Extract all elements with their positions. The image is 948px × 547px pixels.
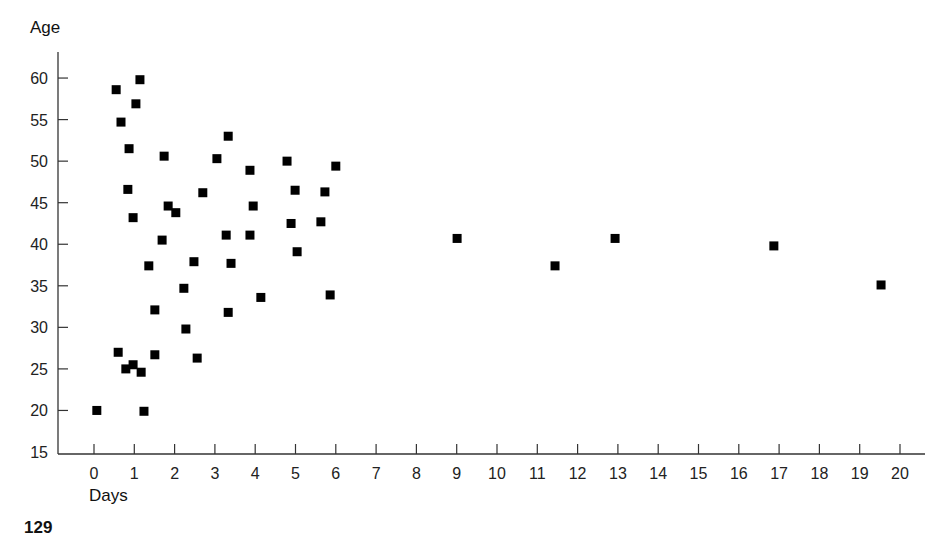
data-point bbox=[139, 407, 148, 416]
x-tick-label: 1 bbox=[130, 465, 139, 482]
data-point bbox=[164, 202, 173, 211]
x-tick-label: 7 bbox=[372, 465, 381, 482]
data-point bbox=[331, 162, 340, 171]
data-point bbox=[453, 234, 462, 243]
y-tick-label: 60 bbox=[30, 70, 48, 87]
data-point bbox=[171, 208, 180, 217]
data-point bbox=[135, 75, 144, 84]
data-points bbox=[92, 75, 885, 416]
data-point bbox=[287, 219, 296, 228]
data-point bbox=[144, 261, 153, 270]
data-point bbox=[316, 217, 325, 226]
data-point bbox=[320, 187, 329, 196]
data-point bbox=[227, 259, 236, 268]
x-tick-label: 10 bbox=[488, 465, 506, 482]
data-point bbox=[123, 185, 132, 194]
data-point bbox=[769, 241, 778, 250]
data-point bbox=[256, 293, 265, 302]
data-point bbox=[245, 231, 254, 240]
x-tick-label: 14 bbox=[649, 465, 667, 482]
data-point bbox=[117, 118, 126, 127]
x-tick-label: 20 bbox=[891, 465, 909, 482]
axes: 1520253035404550556001234567891011121314… bbox=[30, 52, 925, 482]
data-point bbox=[179, 284, 188, 293]
scatter-plot: 1520253035404550556001234567891011121314… bbox=[0, 0, 948, 547]
x-tick-label: 11 bbox=[529, 465, 546, 482]
data-point bbox=[189, 257, 198, 266]
x-tick-label: 0 bbox=[90, 465, 99, 482]
data-point bbox=[293, 247, 302, 256]
data-point bbox=[611, 234, 620, 243]
data-point bbox=[249, 202, 258, 211]
data-point bbox=[160, 152, 169, 161]
x-tick-label: 9 bbox=[452, 465, 461, 482]
y-tick-label: 40 bbox=[30, 236, 48, 253]
data-point bbox=[551, 261, 560, 270]
data-point bbox=[222, 231, 231, 240]
y-tick-label: 20 bbox=[30, 402, 48, 419]
x-tick-label: 3 bbox=[210, 465, 219, 482]
data-point bbox=[92, 406, 101, 415]
data-point bbox=[326, 290, 335, 299]
y-tick-label: 15 bbox=[30, 444, 48, 461]
y-tick-label: 55 bbox=[30, 112, 48, 129]
x-tick-label: 5 bbox=[291, 465, 300, 482]
data-point bbox=[877, 280, 886, 289]
y-tick-label: 30 bbox=[30, 319, 48, 336]
data-point bbox=[129, 360, 138, 369]
data-point bbox=[137, 368, 146, 377]
data-point bbox=[181, 325, 190, 334]
data-point bbox=[212, 154, 221, 163]
data-point bbox=[224, 308, 233, 317]
data-point bbox=[129, 213, 138, 222]
x-tick-label: 18 bbox=[811, 465, 829, 482]
x-tick-label: 13 bbox=[609, 465, 627, 482]
y-tick-label: 25 bbox=[30, 361, 48, 378]
x-tick-label: 2 bbox=[170, 465, 179, 482]
y-tick-label: 50 bbox=[30, 153, 48, 170]
x-tick-label: 19 bbox=[851, 465, 869, 482]
x-tick-label: 8 bbox=[412, 465, 421, 482]
data-point bbox=[112, 85, 121, 94]
data-point bbox=[125, 144, 134, 153]
x-tick-label: 12 bbox=[569, 465, 587, 482]
data-point bbox=[131, 99, 140, 108]
data-point bbox=[198, 188, 207, 197]
data-point bbox=[114, 348, 123, 357]
data-point bbox=[245, 166, 254, 175]
x-tick-label: 4 bbox=[251, 465, 260, 482]
x-tick-label: 6 bbox=[331, 465, 340, 482]
x-tick-label: 15 bbox=[690, 465, 708, 482]
data-point bbox=[193, 354, 202, 363]
data-point bbox=[158, 236, 167, 245]
data-point bbox=[291, 186, 300, 195]
y-tick-label: 35 bbox=[30, 278, 48, 295]
data-point bbox=[150, 350, 159, 359]
data-point bbox=[283, 157, 292, 166]
data-point bbox=[224, 132, 233, 141]
data-point bbox=[150, 305, 159, 314]
x-tick-label: 17 bbox=[770, 465, 788, 482]
y-tick-label: 45 bbox=[30, 195, 48, 212]
x-tick-label: 16 bbox=[730, 465, 748, 482]
